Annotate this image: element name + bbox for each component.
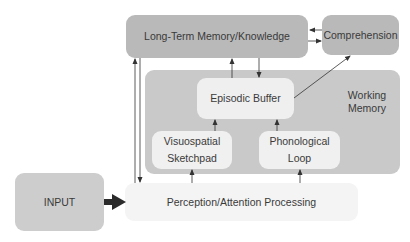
working-memory-label: Working Memory (342, 89, 392, 115)
perception-attention-box: Perception/Attention Processing (125, 183, 358, 221)
phonological-loop-box: Phonological Loop (259, 131, 340, 169)
input-label: INPUT (44, 194, 76, 211)
visuospatial-sketchpad-label: Visuospatial Sketchpad (164, 133, 220, 167)
thick-arrow-input-to-perception (104, 194, 126, 210)
visuospatial-sketchpad-box: Visuospatial Sketchpad (152, 131, 232, 169)
comprehension-label: Comprehension (323, 27, 397, 44)
input-box: INPUT (15, 173, 104, 231)
perception-attention-label: Perception/Attention Processing (167, 194, 316, 211)
comprehension-box: Comprehension (322, 15, 399, 55)
long-term-memory-box: Long-Term Memory/Knowledge (126, 15, 308, 58)
episodic-buffer-box: Episodic Buffer (197, 78, 294, 119)
phonological-loop-label: Phonological Loop (269, 133, 329, 167)
episodic-buffer-label: Episodic Buffer (210, 90, 280, 107)
long-term-memory-label: Long-Term Memory/Knowledge (144, 28, 290, 45)
